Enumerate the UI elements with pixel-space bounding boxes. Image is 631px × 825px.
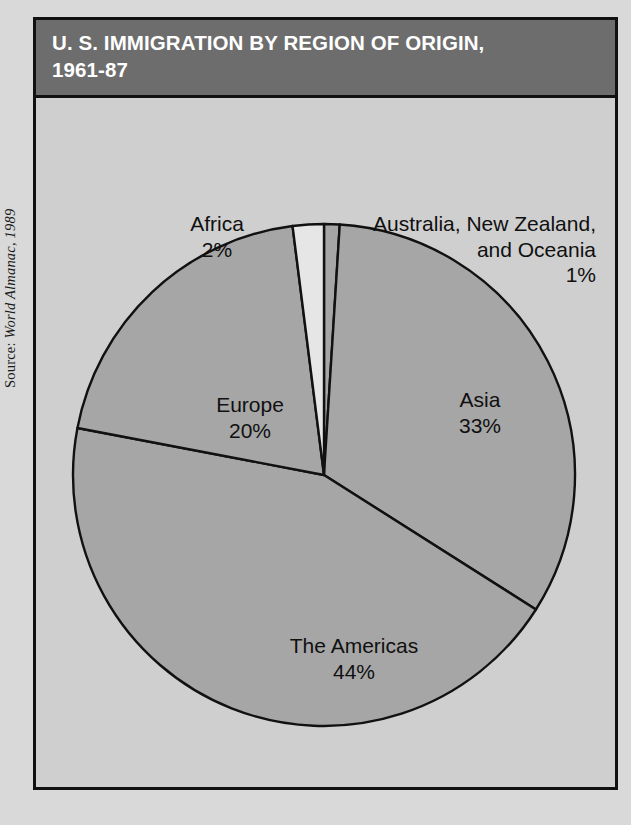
pie-label-americas: The Americas 44% [239,633,469,684]
pie-label-australia-percent: 1% [329,262,596,288]
pie-chart-plot-area: Africa 2% Australia, New Zealand, and Oc… [36,98,615,787]
pie-label-americas-percent: 44% [239,659,469,685]
pie-label-europe: Europe 20% [189,392,311,443]
source-credit-publication: World Almanac, 1989 [2,209,18,339]
chart-title: U. S. IMMIGRATION BY REGION OF ORIGIN, 1… [52,29,597,83]
pie-label-europe-percent: 20% [189,418,311,444]
pie-label-australia-name-line-2: and Oceania [329,237,596,263]
pie-label-australia-name-line-1: Australia, New Zealand, [373,212,596,235]
chart-title-line-2: 1961-87 [52,56,597,83]
pie-label-australia: Australia, New Zealand, and Oceania 1% [329,211,596,288]
source-credit-prefix: Source: [2,338,18,388]
pie-label-africa-name: Africa [190,212,244,235]
pie-label-asia-name: Asia [460,388,501,411]
source-credit: Source: World Almanac, 1989 [0,0,33,825]
pie-label-africa-percent: 2% [169,237,265,263]
chart-title-line-1: U. S. IMMIGRATION BY REGION OF ORIGIN, [52,31,484,54]
chart-title-bar: U. S. IMMIGRATION BY REGION OF ORIGIN, 1… [36,20,615,98]
chart-frame: U. S. IMMIGRATION BY REGION OF ORIGIN, 1… [33,17,618,790]
pie-label-americas-name: The Americas [290,634,418,657]
pie-label-asia: Asia 33% [419,387,541,438]
pie-label-europe-name: Europe [216,393,284,416]
pie-label-africa: Africa 2% [169,211,265,262]
pie-label-asia-percent: 33% [419,413,541,439]
